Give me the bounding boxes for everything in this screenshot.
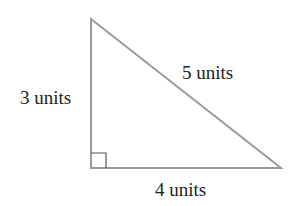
right-angle-marker bbox=[91, 153, 106, 168]
vertical-side-label: 3 units bbox=[20, 87, 71, 108]
right-triangle-diagram: 3 units 5 units 4 units bbox=[0, 0, 301, 206]
triangle-shape bbox=[91, 19, 281, 168]
hypotenuse-label: 5 units bbox=[182, 62, 233, 83]
horizontal-side-label: 4 units bbox=[155, 179, 206, 200]
